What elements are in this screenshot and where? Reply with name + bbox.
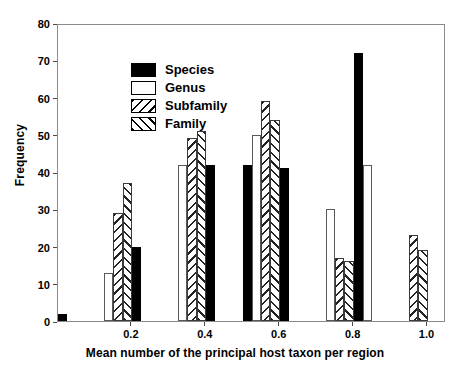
legend-label: Species [165,62,214,77]
bar-species [243,165,252,321]
x-tick-mark [352,322,353,326]
bar-species [58,314,67,321]
bar-species [132,247,141,322]
y-tick-label: 30 [38,202,50,218]
bar-subfamily [113,213,122,321]
x-tick-label: 0.2 [111,328,151,340]
y-axis-title: Frequency [13,95,27,215]
bar-family [123,183,132,321]
legend-item-species: Species [131,61,227,78]
bar-genus [326,209,335,321]
legend-item-subfamily: Subfamily [131,97,227,114]
bar-genus [252,135,261,321]
bar-species [280,168,289,321]
x-tick-label: 1.0 [407,328,447,340]
bar-subfamily [187,138,196,321]
y-tick-label: 60 [38,91,50,107]
y-tick-label: 10 [38,277,50,293]
plot-area: SpeciesGenusSubfamilyFamily [57,24,445,322]
chart-figure: Frequency 01020304050607080 SpeciesGenus… [0,0,470,366]
y-tick-label: 40 [38,165,50,181]
x-axis-title: Mean number of the principal host taxon … [0,346,470,360]
bar-subfamily [261,101,270,321]
legend-label: Subfamily [165,98,227,113]
legend-label: Family [165,116,206,131]
bar-species [354,53,363,321]
y-tick-label: 70 [38,53,50,69]
x-axis: 0.20.40.60.81.0 Mean number of the princ… [0,322,470,366]
bar-genus [178,165,187,321]
bar-family [270,120,279,321]
x-tick-label: 0.4 [185,328,225,340]
bar-family [344,261,353,321]
legend-swatch-species-icon [131,63,156,77]
x-tick-label: 0.8 [333,328,373,340]
y-tick-label: 50 [38,128,50,144]
legend-item-family: Family [131,115,227,132]
legend-swatch-genus-icon [131,81,156,95]
y-tick-label: 80 [38,16,50,32]
legend-label: Genus [165,80,205,95]
x-tick-mark [204,322,205,326]
x-tick-mark [130,322,131,326]
x-tick-label: 0.6 [259,328,299,340]
x-tick-mark [278,322,279,326]
bar-genus [363,165,372,321]
chart-legend: SpeciesGenusSubfamilyFamily [131,61,227,132]
bar-species [206,165,215,321]
legend-swatch-family-icon [131,117,156,131]
y-axis: Frequency 01020304050607080 [0,0,57,366]
bar-family [418,250,427,321]
legend-swatch-subfamily-icon [131,99,156,113]
bar-family [197,131,206,321]
y-tick-label: 20 [38,240,50,256]
bar-subfamily [409,235,418,321]
bar-subfamily [335,258,344,321]
x-tick-mark [426,322,427,326]
bar-genus [104,273,113,321]
legend-item-genus: Genus [131,79,227,96]
